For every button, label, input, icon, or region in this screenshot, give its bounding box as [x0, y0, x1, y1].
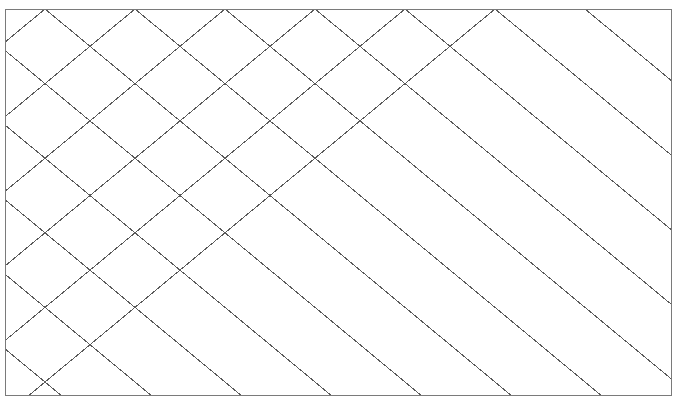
lattice-diagram: [0, 0, 680, 405]
figure-canvas: Diamond lattice grid: [0, 0, 680, 405]
figure-background: [0, 0, 680, 405]
